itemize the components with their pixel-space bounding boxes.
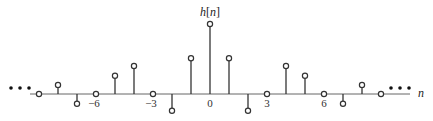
tick-label-minus-6: −6 [88, 97, 100, 109]
plot-title: h[n] [200, 5, 220, 20]
stem-marker [264, 91, 269, 96]
stem-marker [150, 91, 155, 96]
tick-label-minus-3: −3 [145, 97, 157, 109]
stem-marker [93, 91, 98, 96]
stem-marker [112, 73, 117, 78]
stem-marker [188, 56, 193, 61]
tick-label-3: 3 [264, 97, 270, 109]
ellipsis-right [389, 86, 411, 90]
tick-label-6: 6 [321, 97, 327, 109]
stem-marker [321, 91, 326, 96]
stem-marker [207, 21, 212, 26]
stem-marker [36, 91, 41, 96]
ellipsis-left [9, 86, 31, 90]
stem-marker [359, 82, 364, 87]
stem-marker [131, 63, 136, 68]
stem-marker [169, 108, 174, 113]
stem-marker [283, 63, 288, 68]
tick-label-0: 0 [207, 97, 213, 109]
stem-marker [302, 73, 307, 78]
stem-marker [226, 56, 231, 61]
stem-marker [245, 108, 250, 113]
x-axis-label: n [418, 86, 424, 101]
stem-marker [55, 82, 60, 87]
stem-marker [74, 101, 79, 106]
stem-marker [378, 91, 383, 96]
stem-marker [340, 101, 345, 106]
